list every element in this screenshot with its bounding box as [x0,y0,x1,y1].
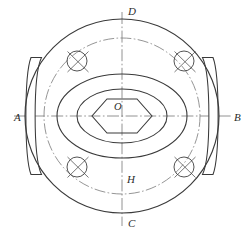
outer-circle [25,19,219,213]
drawing-canvas: D C A B O H [0,0,248,235]
label-center-o: O [114,101,122,112]
technical-drawing-svg: D C A B O H [0,0,248,235]
label-inner-bottom-h: H [126,173,136,185]
label-left-a: A [13,111,21,123]
label-bottom-c: C [128,217,136,229]
label-top-d: D [127,5,136,17]
label-right-b: B [234,111,241,123]
